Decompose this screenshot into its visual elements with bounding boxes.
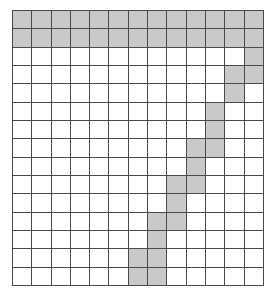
- grid-cell-empty: [70, 139, 89, 157]
- grid-cell-shaded: [32, 29, 51, 47]
- grid-cell-empty: [128, 139, 147, 157]
- grid-cell-empty: [186, 84, 205, 102]
- grid-cell-empty: [109, 65, 128, 83]
- grid-cell-empty: [109, 267, 128, 285]
- grid-cell-empty: [205, 84, 224, 102]
- grid-cell-shaded: [148, 230, 167, 248]
- grid-cell-empty: [32, 120, 51, 138]
- grid-cell-empty: [167, 84, 186, 102]
- grid-row: [13, 84, 264, 102]
- grid-cell-shaded: [128, 249, 147, 267]
- grid-cell-empty: [90, 157, 109, 175]
- grid-cell-empty: [205, 65, 224, 83]
- grid-cell-empty: [13, 139, 32, 157]
- grid-cell-shaded: [225, 11, 244, 29]
- grid-cell-shaded: [148, 249, 167, 267]
- grid-cell-empty: [90, 102, 109, 120]
- grid-cell-shaded: [90, 11, 109, 29]
- grid-cell-empty: [225, 249, 244, 267]
- grid-cell-empty: [225, 230, 244, 248]
- grid-cell-empty: [167, 102, 186, 120]
- grid-cell-empty: [70, 102, 89, 120]
- grid-cell-empty: [13, 65, 32, 83]
- grid-cell-empty: [128, 194, 147, 212]
- grid-table: [12, 10, 264, 286]
- grid-cell-empty: [32, 84, 51, 102]
- grid-cell-empty: [109, 212, 128, 230]
- grid-cell-shaded: [225, 29, 244, 47]
- grid-cell-empty: [90, 212, 109, 230]
- grid-cell-empty: [90, 139, 109, 157]
- grid-cell-empty: [109, 139, 128, 157]
- grid-cell-empty: [109, 175, 128, 193]
- grid-cell-shaded: [205, 139, 224, 157]
- grid-cell-empty: [205, 230, 224, 248]
- grid-cell-empty: [244, 175, 263, 193]
- grid-cell-empty: [13, 120, 32, 138]
- grid-cell-empty: [51, 84, 70, 102]
- grid-cell-empty: [225, 157, 244, 175]
- grid-cell-empty: [167, 120, 186, 138]
- grid-cell-shaded: [148, 212, 167, 230]
- grid-cell-empty: [205, 212, 224, 230]
- grid-cell-empty: [70, 267, 89, 285]
- grid-cell-empty: [13, 84, 32, 102]
- grid-cell-empty: [148, 139, 167, 157]
- grid-cell-shaded: [186, 175, 205, 193]
- grid-figure: [0, 0, 276, 296]
- grid-cell-empty: [167, 267, 186, 285]
- grid-cell-empty: [167, 230, 186, 248]
- grid-cell-shaded: [186, 157, 205, 175]
- grid-cell-shaded: [167, 175, 186, 193]
- grid-row: [13, 194, 264, 212]
- grid-cell-empty: [13, 194, 32, 212]
- grid-cell-empty: [205, 47, 224, 65]
- grid-cell-empty: [225, 139, 244, 157]
- grid-cell-shaded: [148, 11, 167, 29]
- grid-cell-empty: [32, 65, 51, 83]
- grid-cell-empty: [186, 230, 205, 248]
- grid-cell-empty: [167, 157, 186, 175]
- grid-cell-empty: [70, 157, 89, 175]
- grid-cell-shaded: [128, 29, 147, 47]
- grid-cell-shaded: [244, 65, 263, 83]
- grid-cell-empty: [225, 120, 244, 138]
- grid-cell-empty: [148, 157, 167, 175]
- grid-cell-shaded: [225, 65, 244, 83]
- grid-cell-empty: [225, 212, 244, 230]
- grid-cell-empty: [128, 212, 147, 230]
- grid-cell-empty: [109, 120, 128, 138]
- grid-cell-empty: [70, 194, 89, 212]
- grid-cell-empty: [128, 84, 147, 102]
- grid-cell-shaded: [205, 102, 224, 120]
- grid-cell-empty: [90, 47, 109, 65]
- grid-cell-shaded: [109, 29, 128, 47]
- grid-cell-empty: [51, 194, 70, 212]
- grid-cell-empty: [70, 212, 89, 230]
- grid-cell-empty: [90, 230, 109, 248]
- grid-row: [13, 102, 264, 120]
- grid-row: [13, 139, 264, 157]
- grid-cell-empty: [32, 249, 51, 267]
- grid-cell-empty: [51, 102, 70, 120]
- grid-cell-empty: [128, 120, 147, 138]
- grid-cell-shaded: [70, 11, 89, 29]
- grid-cell-empty: [13, 47, 32, 65]
- grid-cell-empty: [90, 120, 109, 138]
- grid-row: [13, 29, 264, 47]
- grid-row: [13, 47, 264, 65]
- grid-cell-empty: [205, 194, 224, 212]
- grid-row: [13, 175, 264, 193]
- grid-cell-empty: [70, 120, 89, 138]
- grid-cell-empty: [13, 212, 32, 230]
- grid-cell-empty: [244, 212, 263, 230]
- grid-cell-empty: [51, 249, 70, 267]
- grid-cell-shaded: [128, 267, 147, 285]
- grid-cell-empty: [90, 65, 109, 83]
- grid-cell-empty: [32, 47, 51, 65]
- grid-cell-empty: [32, 139, 51, 157]
- grid-cell-empty: [32, 230, 51, 248]
- grid-cell-empty: [90, 249, 109, 267]
- grid-cell-shaded: [13, 29, 32, 47]
- grid-cell-empty: [148, 47, 167, 65]
